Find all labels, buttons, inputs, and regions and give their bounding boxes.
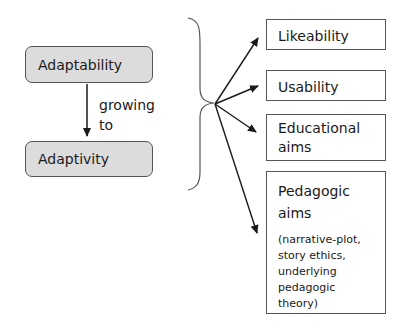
pedagogic-note: (narrative-plot, story ethics, underlyin… bbox=[278, 232, 385, 312]
growing-to-label: growing to bbox=[99, 95, 155, 135]
educational-aims-box: Educational aims bbox=[266, 114, 386, 161]
pedagogic-aims-box: Pedagogic aims (narrative-plot, story et… bbox=[266, 171, 386, 314]
note-line: (narrative-plot, bbox=[278, 232, 385, 248]
arrow-likeability bbox=[215, 38, 258, 104]
curly-brace bbox=[188, 18, 214, 190]
adaptability-box: Adaptability bbox=[25, 46, 153, 83]
growing-text: growing bbox=[99, 95, 155, 115]
arrow-educational bbox=[215, 104, 256, 132]
adaptivity-label: Adaptivity bbox=[38, 151, 109, 167]
note-line: theory) bbox=[278, 296, 385, 312]
note-line: story ethics, bbox=[278, 248, 385, 264]
to-text: to bbox=[99, 115, 155, 135]
adaptability-label: Adaptability bbox=[38, 57, 122, 73]
usability-label: Usability bbox=[278, 79, 338, 95]
usability-box: Usability bbox=[266, 70, 386, 101]
likeability-label: Likeability bbox=[278, 28, 349, 44]
note-line: pedagogic bbox=[278, 280, 385, 296]
pedagogic-aims-label: aims bbox=[278, 202, 385, 224]
adaptivity-box: Adaptivity bbox=[25, 141, 153, 177]
note-line: underlying bbox=[278, 264, 385, 280]
likeability-box: Likeability bbox=[266, 19, 386, 50]
educational-label: Educational bbox=[278, 119, 385, 138]
pedagogic-label: Pedagogic bbox=[278, 180, 385, 202]
arrow-pedagogic bbox=[215, 104, 257, 233]
aims-label: aims bbox=[278, 138, 385, 157]
